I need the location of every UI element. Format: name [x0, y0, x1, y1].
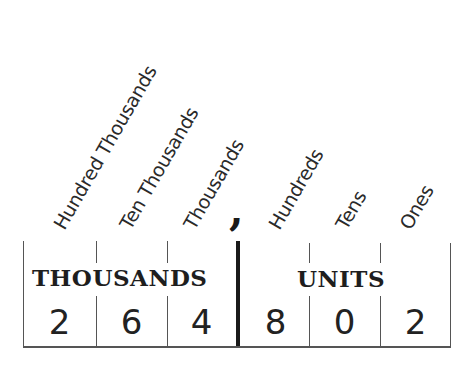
- label-hundreds: Hundreds: [264, 145, 328, 233]
- group-thousands: THOUSANDS: [32, 264, 207, 291]
- divider-5-top: [380, 243, 381, 263]
- digit-hundreds: 8: [240, 302, 311, 342]
- label-tens: Tens: [331, 187, 370, 233]
- digit-ones: 2: [380, 302, 451, 342]
- divider-2-top: [167, 241, 168, 263]
- thousands-separator: ,: [229, 186, 244, 235]
- digit-hundred-thousands: 2: [24, 302, 95, 342]
- group-units: UNITS: [297, 265, 385, 292]
- digit-tens: 0: [309, 302, 380, 342]
- digit-ten-thousands: 6: [96, 302, 167, 342]
- bottom-border: [23, 346, 451, 348]
- label-ones: Ones: [395, 181, 438, 233]
- divider-1-top: [96, 241, 97, 263]
- divider-4-top: [309, 243, 310, 263]
- digit-thousands: 4: [166, 302, 237, 342]
